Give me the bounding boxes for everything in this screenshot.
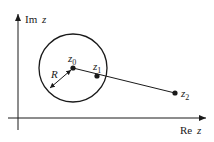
imaginary-axis-label: Im z — [25, 13, 47, 25]
label-z2: z2 — [180, 87, 189, 102]
complex-plane-diagram: Im z Re z R z0 z1 z2 — [0, 0, 214, 142]
real-axis-label: Re z — [180, 124, 202, 136]
segment-z0-z2 — [73, 68, 175, 93]
point-z2 — [172, 90, 177, 95]
label-z0: z0 — [67, 52, 76, 67]
radius-label: R — [50, 68, 58, 80]
